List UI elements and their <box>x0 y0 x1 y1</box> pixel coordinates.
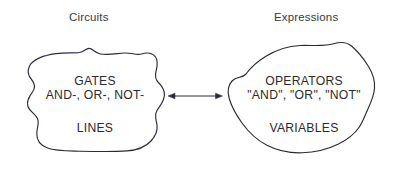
heading-expressions: Expressions <box>274 11 338 23</box>
expressions-item-operators: OPERATORS <box>236 74 372 88</box>
diagram-canvas: Circuits Expressions GATES AND-, OR-, NO… <box>0 0 405 170</box>
double-headed-arrow <box>168 93 223 99</box>
circuits-item-gates: GATES <box>30 74 160 88</box>
circuits-item-lines: LINES <box>30 121 160 135</box>
heading-circuits: Circuits <box>69 11 109 23</box>
arrow-head-left <box>168 93 175 99</box>
expressions-item-operator-names: "AND", "OR", "NOT" <box>236 88 372 102</box>
arrow-head-right <box>216 93 223 99</box>
circuits-item-gate-types: AND-, OR-, NOT- <box>30 88 160 102</box>
expressions-item-variables: VARIABLES <box>236 121 372 135</box>
